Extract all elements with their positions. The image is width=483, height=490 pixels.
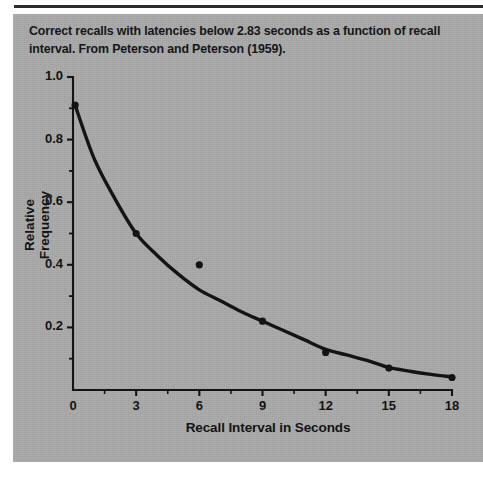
data-point — [259, 318, 266, 325]
data-point — [72, 102, 79, 109]
figure-panel: Correct recalls with latencies below 2.8… — [13, 14, 483, 462]
x-tick-label: 15 — [375, 398, 403, 413]
chart-svg — [13, 14, 483, 462]
x-tick-label: 18 — [438, 398, 466, 413]
data-point — [322, 349, 329, 356]
x-tick-label: 0 — [59, 398, 87, 413]
data-point — [385, 364, 392, 371]
chart-plot-area: 0369121518 0.20.40.60.81.0 Relative Freq… — [13, 14, 483, 462]
data-point — [196, 261, 203, 268]
chart-data-points — [72, 102, 456, 382]
chart-ticks — [67, 77, 452, 396]
x-tick-label: 6 — [185, 398, 213, 413]
data-point — [448, 374, 455, 381]
chart-axes — [73, 77, 452, 390]
chart-fitted-curve — [75, 105, 452, 377]
y-tick-label: 0.8 — [25, 131, 63, 146]
header-rule — [14, 5, 483, 8]
x-axis-title: Recall Interval in Seconds — [73, 420, 463, 435]
y-axis-title: Relative Frequency — [22, 165, 52, 285]
x-tick-label: 12 — [312, 398, 340, 413]
y-tick-label: 0.2 — [25, 318, 63, 333]
data-point — [133, 230, 140, 237]
figure-page: Correct recalls with latencies below 2.8… — [0, 0, 483, 490]
x-tick-label: 3 — [122, 398, 150, 413]
figure-caption: Correct recalls with latencies below 2.8… — [29, 23, 453, 58]
y-tick-label: 1.0 — [25, 68, 63, 83]
x-tick-label: 9 — [249, 398, 277, 413]
